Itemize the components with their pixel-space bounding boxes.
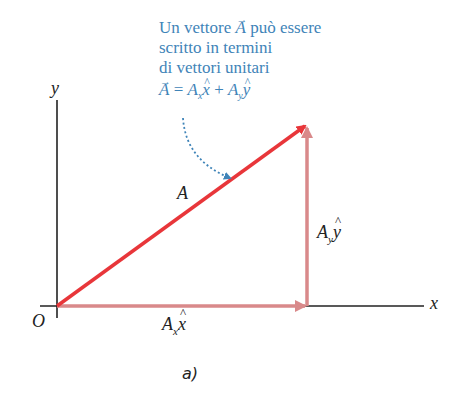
vector-arrow-icon: →	[236, 9, 247, 29]
ay-label: Ay^y	[317, 222, 341, 245]
ax-label: Ax^x	[162, 314, 186, 337]
figure-label: a)	[182, 364, 198, 383]
hat-icon: ^	[335, 213, 341, 229]
hat-icon: ^	[180, 305, 186, 321]
origin-label: O	[32, 311, 45, 332]
caption-line-1: Un vettore →A può essere	[159, 18, 321, 38]
vector-arrow-icon: →	[160, 71, 171, 91]
x-axis-label: x	[430, 293, 438, 314]
y-axis-label: y	[51, 78, 59, 99]
caption-equation: →A = Ax^x + Ay^y	[159, 80, 321, 106]
caption-line-2: scritto in termini	[159, 38, 321, 58]
annotation-arrow	[183, 118, 230, 178]
hat-icon: ^	[245, 72, 251, 92]
vector-a	[57, 126, 305, 306]
hat-icon: ^	[204, 72, 210, 92]
vector-a-label: A	[177, 183, 188, 204]
annotation-text: Un vettore →A può essere scritto in term…	[159, 18, 321, 106]
caption-line-3: di vettori unitari	[159, 58, 321, 78]
